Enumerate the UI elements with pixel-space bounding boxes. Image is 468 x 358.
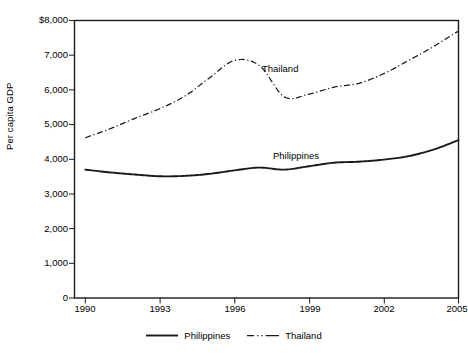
x-tick-label: 2002 [373, 303, 394, 314]
legend-entry-thailand: Thailand [247, 330, 321, 341]
series-annotation-thailand: Thailand [262, 63, 298, 74]
x-tick-label: 1993 [149, 303, 170, 314]
y-axis-ticks [69, 21, 75, 299]
x-tick-label: 1990 [74, 303, 95, 314]
x-tick-label: 1999 [299, 303, 320, 314]
series-line-thailand [85, 31, 458, 138]
chart-figure: Per capita GDP $8,000 7,000 6,000 5,000 … [0, 0, 468, 358]
legend-entry-philippines: Philippines [146, 330, 230, 341]
series-line-philippines [85, 140, 458, 176]
x-axis-tick-labels: 1990 1993 1996 1999 2002 2005 [0, 303, 468, 317]
x-tick-label: 1996 [224, 303, 245, 314]
legend-label-philippines: Philippines [184, 330, 230, 341]
chart-legend: Philippines Thailand [0, 327, 468, 343]
legend-label-thailand: Thailand [285, 330, 321, 341]
legend-swatch-dash-dot-icon [247, 331, 279, 340]
series-annotation-philippines: Philippines [273, 150, 319, 161]
x-tick-label: 2005 [446, 303, 467, 314]
legend-swatch-solid-icon [146, 331, 178, 340]
